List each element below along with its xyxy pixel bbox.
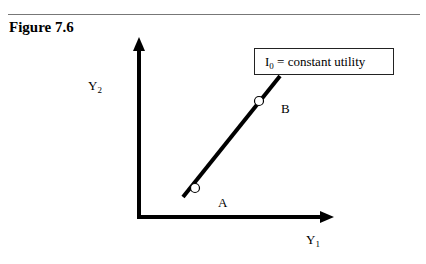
indifference-line xyxy=(183,76,280,197)
point-a-marker xyxy=(191,184,200,193)
point-a-label: A xyxy=(218,195,227,211)
y-axis-arrow-icon xyxy=(133,37,145,51)
diagram-canvas xyxy=(0,0,426,264)
point-b-label: B xyxy=(281,101,290,117)
x-axis-arrow-icon xyxy=(320,211,334,223)
y-axis-label: Y2 xyxy=(88,78,102,95)
curve-label-box: I0 = constant utility xyxy=(254,48,394,75)
x-axis-label: Y1 xyxy=(306,232,320,249)
point-b-marker xyxy=(255,97,264,106)
